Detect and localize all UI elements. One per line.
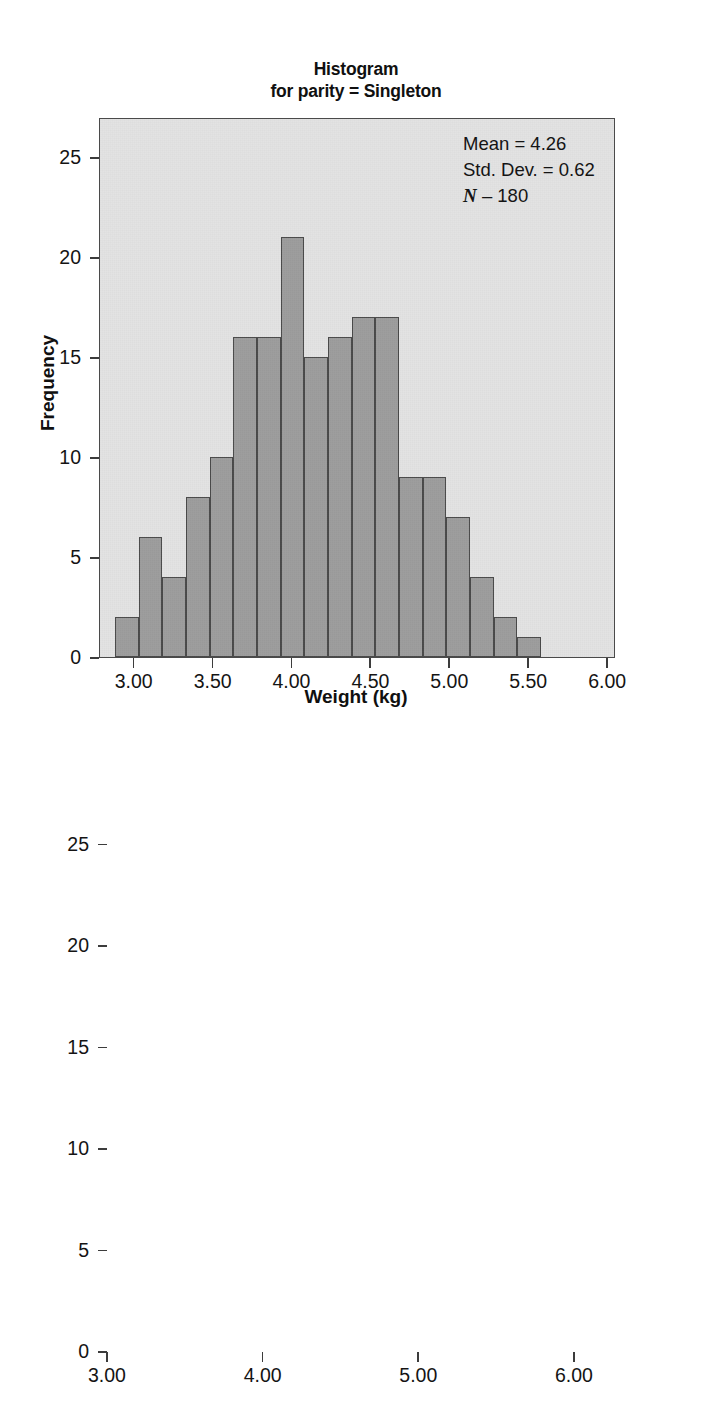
y-tick-mark xyxy=(90,257,99,259)
x-tick-label: 6.00 xyxy=(534,1364,614,1387)
x-tick-mark xyxy=(106,1352,108,1362)
x-tick-mark xyxy=(606,658,608,668)
chart-title-1: Histogram for parity = Singleton xyxy=(0,58,712,102)
x-tick-mark xyxy=(262,1352,264,1362)
y-tick-label: 15 xyxy=(37,1036,89,1059)
histogram-bar xyxy=(257,337,281,657)
histogram-bar xyxy=(446,517,470,657)
histogram-bar xyxy=(115,617,139,657)
n-value-1: – 180 xyxy=(482,185,528,206)
y-tick-label: 15 xyxy=(29,346,81,369)
x-tick-label: 4.00 xyxy=(223,1364,303,1387)
y-tick-label: 10 xyxy=(29,446,81,469)
x-tick-label: 3.00 xyxy=(67,1364,147,1387)
y-tick-mark xyxy=(90,557,99,559)
x-tick-mark xyxy=(448,658,450,668)
histogram-bar xyxy=(281,237,305,657)
histogram-bar xyxy=(517,637,541,657)
y-tick-mark xyxy=(90,457,99,459)
x-tick-mark xyxy=(369,658,371,668)
y-tick-label: 5 xyxy=(29,546,81,569)
x-tick-label: 5.50 xyxy=(488,670,568,693)
chart-title-line-1: Histogram xyxy=(0,58,712,80)
y-tick-label: 10 xyxy=(37,1137,89,1160)
x-tick-label: 4.00 xyxy=(252,670,332,693)
y-tick-label: 25 xyxy=(29,146,81,169)
y-tick-label: 5 xyxy=(37,1239,89,1262)
y-tick-label: 20 xyxy=(37,934,89,957)
y-tick-mark xyxy=(98,1250,107,1252)
y-axis-title-1: Frequency xyxy=(37,313,59,453)
y-tick-label: 0 xyxy=(29,646,81,669)
n-symbol-1: N xyxy=(463,185,477,206)
x-tick-label: 5.00 xyxy=(378,1364,458,1387)
y-tick-mark xyxy=(98,1047,107,1049)
histogram-figure-one-sibling: Histogram for parity = One sibling Mean … xyxy=(0,712,712,1418)
histogram-bar xyxy=(186,497,210,657)
stats-annotation-1: Mean = 4.26 Std. Dev. = 0.62 N – 180 xyxy=(463,131,595,209)
y-tick-label: 25 xyxy=(37,833,89,856)
std-dev-value-1: Std. Dev. = 0.62 xyxy=(463,157,595,183)
x-tick-mark xyxy=(573,1352,575,1362)
y-tick-label: 0 xyxy=(37,1340,89,1363)
y-tick-mark xyxy=(98,844,107,846)
x-tick-label: 3.50 xyxy=(173,670,253,693)
x-tick-label: 6.00 xyxy=(567,670,647,693)
y-tick-mark xyxy=(90,657,99,659)
y-tick-mark xyxy=(98,945,107,947)
histogram-bar xyxy=(375,317,399,657)
figure-page: Histogram for parity = Singleton Mean = … xyxy=(0,0,712,1418)
histogram-figure-singleton: Histogram for parity = Singleton Mean = … xyxy=(0,0,712,712)
histogram-bar xyxy=(162,577,186,657)
y-tick-label: 20 xyxy=(29,246,81,269)
y-tick-mark xyxy=(98,1148,107,1150)
x-tick-label: 5.00 xyxy=(409,670,489,693)
histogram-bar xyxy=(328,337,352,657)
histogram-bar xyxy=(470,577,494,657)
histogram-bar xyxy=(210,457,234,657)
chart-subtitle-line-1: for parity = Singleton xyxy=(0,80,712,102)
histogram-bar xyxy=(304,357,328,657)
x-tick-mark xyxy=(527,658,529,668)
histogram-bar xyxy=(423,477,447,657)
y-tick-mark xyxy=(90,357,99,359)
histogram-bar xyxy=(494,617,518,657)
histogram-bar xyxy=(352,317,376,657)
x-tick-label: 3.00 xyxy=(94,670,174,693)
x-tick-mark xyxy=(291,658,293,668)
y-tick-mark xyxy=(90,157,99,159)
x-tick-mark xyxy=(212,658,214,668)
histogram-bar xyxy=(233,337,257,657)
histogram-bar xyxy=(139,537,163,657)
mean-value-1: Mean = 4.26 xyxy=(463,131,595,157)
sample-size-1: N – 180 xyxy=(463,183,595,209)
x-tick-label: 4.50 xyxy=(330,670,410,693)
histogram-bar xyxy=(399,477,423,657)
x-tick-mark xyxy=(417,1352,419,1362)
x-tick-mark xyxy=(133,658,135,668)
